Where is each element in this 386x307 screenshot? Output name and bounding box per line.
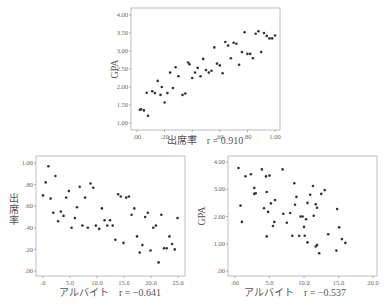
data-point [306, 202, 309, 205]
data-point [263, 32, 266, 35]
data-point [140, 108, 143, 111]
data-point [191, 77, 194, 80]
data-point [268, 37, 271, 40]
data-point [286, 222, 289, 225]
data-point [147, 115, 150, 118]
data-point [230, 57, 233, 60]
data-point [57, 220, 60, 223]
data-point [106, 224, 109, 227]
data-point [174, 248, 177, 251]
data-point [163, 247, 166, 250]
data-point [194, 71, 197, 74]
data-point [323, 189, 326, 192]
data-point [252, 57, 255, 60]
y-tick-label: 1.00 [22, 159, 33, 166]
data-point [136, 235, 139, 238]
data-point [117, 193, 120, 196]
data-point [145, 92, 148, 95]
data-point [312, 185, 315, 188]
data-point [250, 173, 253, 176]
data-point [205, 69, 208, 72]
y-tick-label: .40 [25, 224, 33, 231]
data-point [227, 44, 230, 47]
data-point [65, 196, 68, 199]
data-point [293, 182, 296, 185]
data-point [177, 75, 180, 78]
data-point [138, 251, 141, 254]
data-point [171, 243, 174, 246]
data-point [114, 238, 117, 241]
data-point [128, 195, 131, 198]
data-point [301, 215, 304, 218]
data-point [184, 92, 187, 95]
data-point [144, 216, 147, 219]
x-tick-label: 5.0 [265, 279, 273, 286]
data-point [103, 219, 106, 222]
data-point [219, 64, 222, 67]
data-point [241, 51, 244, 54]
data-point [294, 204, 297, 207]
data-point [338, 226, 341, 229]
data-point [274, 199, 277, 202]
data-point [241, 221, 244, 224]
y-tick-label: 1.00 [117, 119, 128, 126]
x-tick-label: 10.0 [91, 279, 102, 286]
data-point [318, 252, 321, 255]
scatter-plot-top: 1.001.502.002.503.003.504.00.00.20.40.60… [0, 0, 386, 150]
data-point [272, 225, 275, 228]
data-point [89, 182, 92, 185]
data-point [291, 235, 294, 238]
y-axis-label-char: 出 [9, 192, 19, 204]
data-point [263, 207, 266, 210]
x-tick-label: 15.0 [333, 279, 344, 286]
data-point [92, 187, 95, 190]
x-tick-label: .00 [231, 279, 239, 286]
data-point [44, 181, 47, 184]
y-tick-label: .60 [25, 202, 33, 209]
data-point [208, 71, 211, 74]
x-tick-label: .80 [243, 133, 251, 140]
data-point [54, 175, 57, 178]
data-point [202, 58, 205, 61]
data-point [238, 63, 241, 66]
data-point [281, 168, 284, 171]
data-point [47, 165, 50, 168]
data-point [156, 80, 159, 83]
data-point [249, 53, 252, 56]
data-point [210, 70, 213, 73]
data-point [265, 235, 268, 238]
y-tick-label: .00 [217, 267, 225, 274]
data-point [312, 214, 315, 217]
data-point [265, 35, 268, 38]
data-point [268, 174, 271, 177]
y-tick-label: 2.00 [214, 213, 225, 220]
data-point [265, 175, 268, 178]
data-point [265, 191, 268, 194]
x-tick-label: 5.0 [66, 279, 74, 286]
data-point [254, 32, 257, 35]
data-point [282, 213, 285, 216]
y-axis-label-char: 率 [9, 214, 19, 226]
data-point [87, 227, 90, 230]
data-point [316, 244, 319, 247]
data-point [151, 90, 154, 93]
y-tick-label: 1.50 [117, 101, 128, 108]
data-point [335, 249, 338, 252]
data-point [130, 214, 133, 217]
y-axis-label-char: 席 [9, 203, 19, 215]
y-tick-label: .00 [25, 267, 33, 274]
y-tick-label: .20 [25, 246, 33, 253]
scatter-plot-bottom-left: .00.20.40.60.801.00.05.010.015.020.025.0… [0, 150, 195, 300]
data-point [188, 63, 191, 66]
x-tick-label: 20.0 [367, 279, 378, 286]
data-point [344, 242, 347, 245]
data-point [261, 168, 264, 171]
data-point [271, 37, 274, 40]
data-point [298, 235, 301, 238]
plot-frame [36, 156, 185, 276]
data-point [254, 192, 257, 195]
y-tick-label: .80 [25, 181, 33, 188]
data-point [295, 196, 298, 199]
data-point [109, 219, 112, 222]
data-point [253, 187, 256, 190]
